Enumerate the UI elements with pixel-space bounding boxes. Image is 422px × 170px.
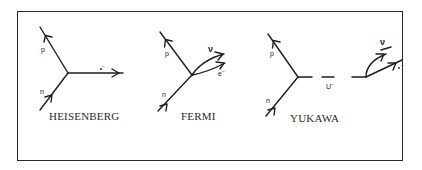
fermi-diagram [158, 32, 225, 111]
yukawa-neutron-label: n [266, 97, 270, 104]
fermi-neutron-label: n [162, 91, 166, 98]
feynman-diagrams [0, 0, 422, 170]
heisenberg-neutron-line [40, 73, 68, 110]
heisenberg-electron-label: − [99, 64, 105, 72]
yukawa-mediator-label: U− [326, 82, 334, 90]
heisenberg-diagram [40, 27, 123, 110]
heisenberg-electron-charge: − [102, 63, 105, 69]
fermi-electron-label: e− [218, 69, 225, 77]
yukawa-neutron-line [266, 77, 298, 116]
fermi-vertex-dot [191, 74, 194, 77]
yukawa-proton-label: p [270, 50, 274, 57]
fermi-proton-label: p [165, 50, 169, 57]
yukawa-mediator-charge: − [331, 81, 334, 87]
heisenberg-proton-label: p [41, 46, 45, 53]
beta-decay-diagrams-figure: p n − HEISENBERG p n ν e− FERMI p n U− ν… [0, 0, 422, 170]
heisenberg-title: HEISENBERG [49, 110, 119, 122]
fermi-electron-charge: − [222, 68, 225, 74]
heisenberg-neutron-label: n [40, 88, 44, 95]
yukawa-title: YUKAWA [290, 112, 339, 124]
yukawa-neutrino-label: ν [380, 38, 385, 47]
fermi-neutrino-label: ν [208, 45, 213, 54]
yukawa-electron-label: − [398, 63, 404, 71]
yukawa-neutrino-tick [381, 47, 391, 50]
fermi-title: FERMI [181, 110, 216, 122]
yukawa-electron-charge: − [401, 62, 404, 68]
